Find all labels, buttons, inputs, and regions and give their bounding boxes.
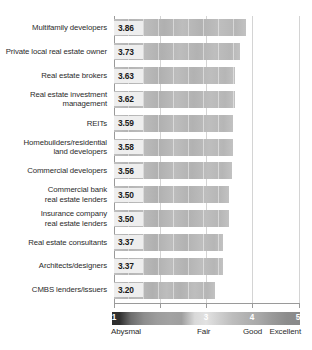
bar-row-label: Real estate brokers: [0, 71, 112, 80]
legend-caption-excellent: Excellent: [269, 327, 301, 336]
bar-row: CMBS lenders/issuers3.20: [0, 278, 312, 302]
bar-row: Multifamily developers3.86: [0, 16, 312, 40]
axis-tick-5: [299, 303, 300, 308]
bar-track: 3.73: [112, 40, 310, 64]
bar-rows: Multifamily developers3.86Private local …: [0, 16, 312, 302]
bar-row-label: CMBS lenders/issuers: [0, 285, 112, 294]
bar-row-label: Real estate consultants: [0, 238, 112, 247]
bar-row-label: Real estate investment management: [0, 90, 112, 109]
bar-row-label: Private local real estate owner: [0, 47, 112, 56]
bar-value-label: 3.58: [114, 140, 143, 154]
bar-track: 3.50: [112, 207, 310, 231]
bar-value-label: 3.59: [114, 116, 143, 130]
bar-value-label: 3.20: [114, 283, 143, 297]
bar-row: Real estate consultants3.37: [0, 230, 312, 254]
legend-value-4: 4: [244, 313, 260, 322]
bar-row: Real estate investment management3.62: [0, 87, 312, 111]
bar-row-label: REITs: [0, 119, 112, 128]
bar-track: 3.37: [112, 254, 310, 278]
axis-tick-4: [252, 303, 253, 308]
legend-caption-abysmal: Abysmal: [111, 327, 141, 336]
bar-value-label: 3.86: [114, 21, 143, 35]
legend-caption-fair: Fair: [197, 327, 210, 336]
bar-value-label: 3.37: [114, 259, 143, 273]
bar-row: Real estate brokers3.63: [0, 64, 312, 88]
bar-value-label: 3.37: [114, 235, 143, 249]
bar-row: REITs3.59: [0, 111, 312, 135]
bar-row: Homebuilders/residential land developers…: [0, 135, 312, 159]
bar-row: Commercial developers3.56: [0, 159, 312, 183]
bar-track: 3.56: [112, 159, 310, 183]
bar-track: 3.20: [112, 278, 310, 302]
bar-track: 3.63: [112, 64, 310, 88]
dotted-divider: [4, 6, 308, 8]
axis-tick-1: [114, 303, 115, 308]
bar-value-label: 3.73: [114, 45, 143, 59]
bar-value-label: 3.63: [114, 69, 143, 83]
bar-row: Architects/designers3.37: [0, 254, 312, 278]
bar-row: Private local real estate owner3.73: [0, 40, 312, 64]
bar-row-label: Insurance company real estate lenders: [0, 209, 112, 228]
bar-track: 3.86: [112, 16, 310, 40]
bar-track: 3.62: [112, 87, 310, 111]
axis-tick-2: [160, 303, 161, 308]
bar-row-label: Homebuilders/residential land developers: [0, 138, 112, 157]
bar-row-label: Commercial bank real estate lenders: [0, 185, 112, 204]
bar-value-label: 3.50: [114, 188, 143, 202]
bar-row-label: Architects/designers: [0, 261, 112, 270]
legend-value-1: 1: [106, 313, 122, 322]
bar-value-label: 3.56: [114, 164, 143, 178]
bar-value-label: 3.50: [114, 212, 143, 226]
bar-row-label: Commercial developers: [0, 166, 112, 175]
legend-value-5: 5: [290, 313, 306, 322]
bar-row-label: Multifamily developers: [0, 23, 112, 32]
axis-tick-3: [206, 303, 207, 308]
bar-row: Commercial bank real estate lenders3.50: [0, 183, 312, 207]
bar-track: 3.58: [112, 135, 310, 159]
bar-track: 3.59: [112, 111, 310, 135]
chart-page: Multifamily developers3.86Private local …: [0, 0, 312, 350]
legend-caption-good: Good: [243, 327, 262, 336]
bar-value-label: 3.62: [114, 92, 143, 106]
legend-value-3: 3: [198, 313, 214, 322]
bar-track: 3.37: [112, 230, 310, 254]
bar-row: Insurance company real estate lenders3.5…: [0, 207, 312, 231]
bar-track: 3.50: [112, 183, 310, 207]
